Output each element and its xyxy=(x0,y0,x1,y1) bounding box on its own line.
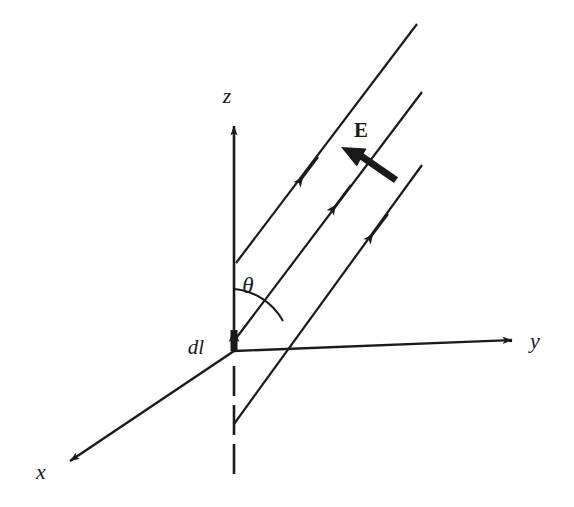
ray-1 xyxy=(236,24,417,263)
axes-group xyxy=(70,126,512,478)
ray-1-direction-arrow xyxy=(300,157,318,181)
field-vector-label: E xyxy=(354,118,368,142)
ray-group xyxy=(234,24,422,424)
dipole-element-label: dl xyxy=(188,335,205,359)
ray-3 xyxy=(234,165,422,424)
x-axis-line xyxy=(70,351,234,461)
x-axis-label: x xyxy=(35,459,46,484)
y-axis-line xyxy=(234,340,512,351)
theta-arc xyxy=(234,289,283,321)
ray-2 xyxy=(234,92,422,341)
dipole-radiation-figure: z y x θ dl E xyxy=(0,0,574,507)
ray-2-direction-arrow xyxy=(333,185,351,209)
ray-3-direction-arrow xyxy=(370,214,388,238)
electric-field-vector xyxy=(341,147,398,183)
y-axis-label: y xyxy=(528,328,540,353)
z-axis-label: z xyxy=(222,83,232,108)
diagram-canvas: z y x θ dl E xyxy=(0,0,574,507)
theta-label: θ xyxy=(242,273,253,298)
